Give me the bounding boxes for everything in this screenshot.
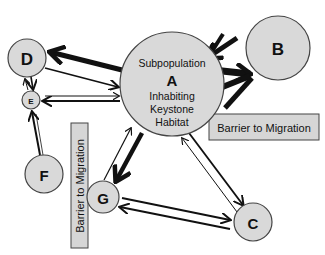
node-d-label: D xyxy=(21,50,33,69)
arrow-e-to-d xyxy=(25,79,28,90)
node-a-line-1: Inhabiting xyxy=(149,90,195,102)
arrow-d-to-a xyxy=(45,68,118,87)
node-d: D xyxy=(8,39,46,77)
node-c-label: C xyxy=(248,215,259,232)
migration-diagram: Barrier to Migration Barrier to Migratio… xyxy=(0,0,325,255)
arrow-g-to-c xyxy=(122,198,230,220)
node-a-label: A xyxy=(167,72,178,89)
node-f-label: F xyxy=(39,167,48,184)
arrow-g-to-a xyxy=(104,128,131,180)
arrow-c-to-g xyxy=(120,207,230,229)
arrow-a-to-g xyxy=(116,133,142,181)
arrow-a-to-c xyxy=(189,133,243,205)
node-b-label: B xyxy=(272,40,284,59)
node-c: C xyxy=(234,203,272,241)
node-e: E xyxy=(22,91,40,109)
arrow-f-to-e xyxy=(32,112,40,155)
barrier-horizontal-label: Barrier to Migration xyxy=(217,122,311,134)
arrow-d-to-e xyxy=(31,77,33,89)
node-a: Subpopulation A Inhabiting Keystone Habi… xyxy=(120,32,224,136)
node-g: G xyxy=(87,181,119,213)
node-a-line-2: Keystone xyxy=(150,103,194,115)
barrier-vertical: Barrier to Migration xyxy=(71,123,88,248)
barrier-horizontal: Barrier to Migration xyxy=(209,114,319,140)
node-f: F xyxy=(25,155,63,193)
arrow-a-to-d xyxy=(50,52,122,70)
node-a-line-3: Habitat xyxy=(155,116,188,128)
node-g-label: G xyxy=(97,190,109,207)
node-b: B xyxy=(246,16,310,80)
node-a-subtitle: Subpopulation xyxy=(138,57,205,69)
barrier-vertical-label: Barrier to Migration xyxy=(74,139,86,233)
arrow-c-to-a xyxy=(182,138,237,212)
node-e-label: E xyxy=(28,97,34,106)
